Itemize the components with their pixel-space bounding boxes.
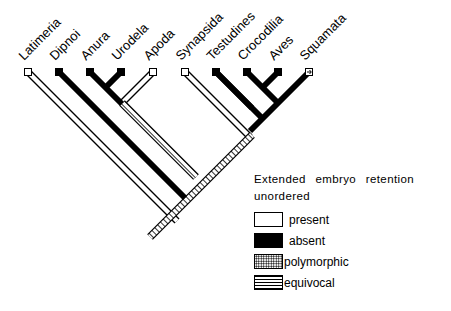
- legend-title: Extended embryo retention: [254, 171, 444, 188]
- branch-anura-urodela: [90, 72, 122, 104]
- legend-label: equivocal: [284, 276, 335, 290]
- legend-subtitle: unordered: [254, 188, 444, 205]
- legend-label: absent: [289, 234, 325, 248]
- polymorphic-swatch-icon: [254, 254, 283, 269]
- legend: Extended embryo retention unordered pres…: [254, 171, 444, 293]
- branch-equivocal-amphibia: [122, 103, 196, 177]
- branch-synapsida: [185, 72, 250, 137]
- legend-item-polymorphic: polymorphic: [254, 251, 444, 272]
- legend-label: polymorphic: [284, 255, 349, 269]
- legend-label: present: [289, 213, 329, 227]
- branch-reptiles: [216, 72, 309, 136]
- present-swatch-icon: [254, 212, 283, 227]
- branch-apoda: [122, 72, 153, 103]
- legend-item-present: present: [254, 209, 444, 230]
- tip-markers: [25, 68, 313, 76]
- branch-dipnoi: [59, 72, 185, 198]
- absent-swatch-icon: [254, 233, 283, 248]
- legend-item-equivocal: equivocal: [254, 272, 444, 293]
- branch-latimeria: [28, 72, 177, 221]
- legend-item-absent: absent: [254, 230, 444, 251]
- equivocal-swatch-icon: [254, 275, 283, 290]
